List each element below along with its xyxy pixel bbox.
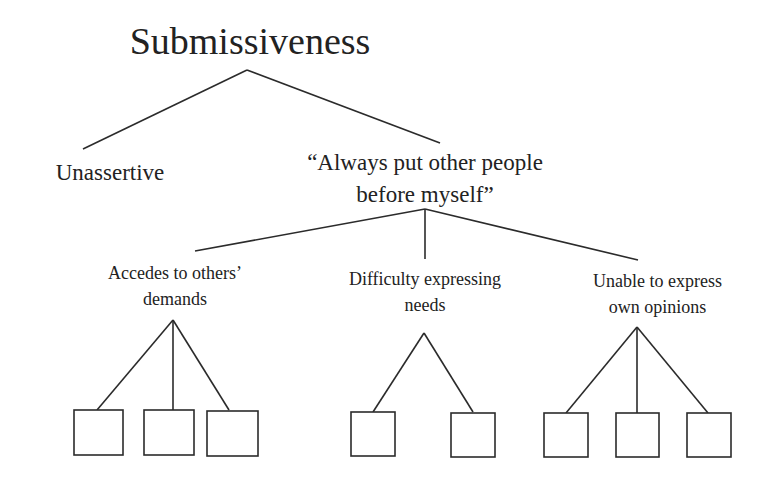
node-accedes-line1: Accedes to others’: [70, 260, 280, 286]
tree-connectors: [0, 0, 775, 484]
leaf-box: [451, 413, 495, 457]
leaf-box: [74, 410, 123, 455]
edge-accedes-leaf-1: [97, 320, 173, 410]
leaf-box: [144, 410, 194, 455]
node-unable-line1: Unable to express: [540, 268, 775, 294]
edge-unable-leaf-1: [566, 327, 637, 413]
edge-difficulty-leaf-2: [424, 333, 473, 412]
node-difficulty: Difficulty expressing needs: [310, 266, 540, 318]
node-belief-line1: “Always put other people: [260, 147, 590, 179]
node-difficulty-line1: Difficulty expressing: [310, 266, 540, 292]
edge-accedes-leaf-3: [173, 320, 229, 410]
edge-root-belief: [247, 70, 440, 143]
leaf-box: [687, 413, 731, 457]
node-belief: “Always put other people before myself”: [260, 147, 590, 211]
leaf-box: [616, 413, 659, 457]
edge-difficulty-leaf-1: [373, 333, 424, 412]
node-unable-line2: own opinions: [540, 294, 775, 320]
edge-root-unassertive: [83, 70, 247, 149]
leaf-box: [544, 413, 588, 457]
node-difficulty-line2: needs: [310, 292, 540, 318]
root-node-label: Submissiveness: [100, 20, 400, 64]
node-accedes: Accedes to others’ demands: [70, 260, 280, 312]
edge-belief-unable: [425, 209, 638, 260]
leaf-box: [351, 412, 395, 456]
node-belief-line2: before myself”: [260, 179, 590, 211]
leaf-box: [207, 411, 258, 456]
node-unassertive: Unassertive: [30, 160, 190, 186]
node-unable: Unable to express own opinions: [540, 268, 775, 320]
edge-belief-accedes: [195, 209, 425, 251]
edge-unable-leaf-3: [637, 327, 708, 413]
node-accedes-line2: demands: [70, 286, 280, 312]
